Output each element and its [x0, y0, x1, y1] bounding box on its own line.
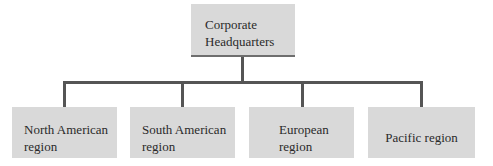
node-label: North American	[24, 121, 117, 138]
connector-european	[301, 81, 304, 107]
node-north-american-region: North American region	[12, 107, 117, 158]
node-pacific-region: Pacific region	[368, 107, 475, 158]
node-european-region: European region	[249, 107, 354, 158]
node-label: region	[142, 138, 235, 155]
node-label: European	[279, 121, 354, 138]
connector-pacific	[420, 81, 423, 107]
connector-horizontal-bus	[63, 81, 423, 84]
node-label: Headquarters	[205, 33, 295, 50]
node-label: region	[24, 138, 117, 155]
node-south-american-region: South American region	[130, 107, 235, 158]
node-corporate-headquarters: Corporate Headquarters	[191, 4, 295, 57]
node-label: South American	[142, 121, 235, 138]
connector-north-american	[63, 81, 66, 107]
node-label: region	[279, 138, 354, 155]
node-label: Corporate	[205, 16, 295, 33]
node-label: Pacific region	[368, 129, 475, 146]
connector-root-vertical	[241, 57, 244, 83]
connector-south-american	[181, 81, 184, 107]
